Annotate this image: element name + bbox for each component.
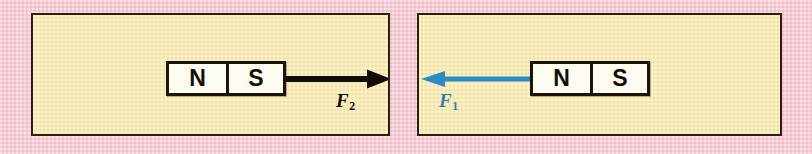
magnet-right-pole-south: S <box>590 64 647 93</box>
magnet-left-pole-south: S <box>226 64 283 93</box>
magnet-right-pole-north: N <box>533 64 590 93</box>
force-symbol-f1: F <box>439 90 452 111</box>
force-arrow-f1-left <box>419 68 534 90</box>
physics-figure: N S F2 F1 N S <box>0 0 812 154</box>
force-label-f2: F2 <box>336 91 355 110</box>
panel-right: F1 N S <box>417 13 782 136</box>
force-symbol-f2: F <box>336 90 349 111</box>
force-label-f1: F1 <box>439 91 458 110</box>
magnet-right: N S <box>530 61 650 96</box>
magnet-left-pole-north: N <box>169 64 226 93</box>
panel-left: N S F2 <box>31 13 390 136</box>
magnet-left: N S <box>166 61 286 96</box>
force-subscript-f1: 1 <box>452 100 458 113</box>
force-subscript-f2: 2 <box>349 100 355 113</box>
force-arrow-f2-right <box>285 68 390 90</box>
